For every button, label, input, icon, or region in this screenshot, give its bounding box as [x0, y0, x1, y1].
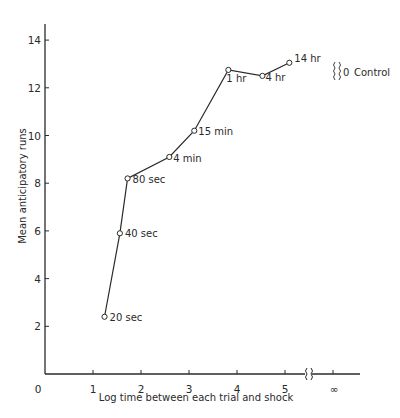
data-point-marker — [226, 67, 231, 72]
y-tick-label: 10 — [28, 130, 41, 142]
y-tick-label: 4 — [34, 273, 41, 285]
data-markers — [102, 60, 292, 319]
y-tick-label: 6 — [34, 225, 41, 237]
y-tick-label: 14 — [28, 34, 42, 46]
control-value: 0 — [343, 67, 349, 78]
data-point-label: 4 min — [173, 153, 201, 164]
y-tick-label: 2 — [34, 320, 41, 332]
data-point-label: 14 hr — [294, 53, 321, 64]
x-axis-label: Log time between each trial and shock — [99, 392, 294, 403]
data-point-marker — [125, 176, 130, 181]
axis-break-icon — [334, 62, 341, 80]
control-label: Control — [354, 67, 390, 78]
data-point-marker — [260, 73, 265, 78]
y-tick-label: 8 — [34, 177, 41, 189]
axis-break-icon — [306, 368, 313, 380]
y-ticks: 2468101214 — [28, 34, 49, 332]
data-point-label: 80 sec — [133, 174, 166, 185]
data-point-marker — [167, 154, 172, 159]
data-point-marker — [102, 314, 107, 319]
data-line — [105, 63, 290, 317]
data-point-label: 20 sec — [110, 312, 143, 323]
x-tick-label: 1 — [90, 383, 97, 395]
data-point-label: 15 min — [198, 126, 233, 137]
x-origin-label: 0 — [35, 383, 42, 395]
y-tick-label: 12 — [28, 82, 41, 94]
y-axis-label: Mean anticipatory runs — [17, 128, 28, 244]
data-point-marker — [117, 231, 122, 236]
data-point-marker — [287, 60, 292, 65]
line-chart: 2468101214 12345 0 ∞ Log time between ea… — [0, 0, 400, 418]
data-point-label: 40 sec — [125, 228, 158, 239]
data-point-label: 4 hr — [265, 72, 286, 83]
x-tick-label-infinity: ∞ — [330, 383, 339, 395]
control-annotation: 0 Control — [334, 62, 391, 80]
data-point-marker — [192, 128, 197, 133]
data-point-label: 1 hr — [226, 73, 247, 84]
